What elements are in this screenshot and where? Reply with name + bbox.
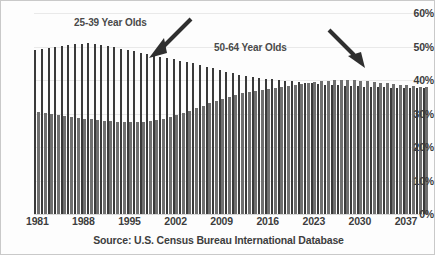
bar-group <box>34 13 41 214</box>
bar-group <box>54 13 61 214</box>
bar-group <box>304 13 311 214</box>
bar-group <box>120 13 127 214</box>
bar-group <box>41 13 48 214</box>
x-axis-tick-label: 2002 <box>164 216 187 227</box>
annotation-label-50-64: 50-64 Year Olds <box>214 42 287 53</box>
bar-group <box>310 13 317 214</box>
bar-group <box>87 13 94 214</box>
x-axis-tick-label: 2037 <box>395 216 418 227</box>
x-axis-tick-label: 1988 <box>72 216 95 227</box>
bar-group <box>389 13 396 214</box>
y-axis-tick-label: 30% <box>403 109 434 120</box>
y-axis-tick-label: 20% <box>403 142 434 153</box>
bar-group <box>297 13 304 214</box>
chart-figure: 0%10%20%30%40%50%60% 1981198819952002200… <box>0 0 435 255</box>
bar-group <box>198 13 205 214</box>
x-axis-tick-label: 2009 <box>210 216 233 227</box>
bar-group <box>80 13 87 214</box>
annotation-label-25-39: 25-39 Year Olds <box>74 17 147 28</box>
x-axis-tick-label: 2016 <box>256 216 279 227</box>
y-axis-tick-label: 40% <box>403 75 434 86</box>
y-axis-tick-label: 50% <box>403 42 434 53</box>
x-axis-tick-label: 1995 <box>118 216 141 227</box>
arrow-icon-25-39 <box>143 15 195 59</box>
x-axis-tick-label: 2030 <box>349 216 372 227</box>
bar-group <box>126 13 133 214</box>
bar-group <box>60 13 67 214</box>
bar-group <box>291 13 298 214</box>
bar-group <box>100 13 107 214</box>
bar-group <box>67 13 74 214</box>
arrow-icon-50-64 <box>323 27 373 71</box>
y-axis-tick-label: 10% <box>403 176 434 187</box>
bar-group <box>93 13 100 214</box>
x-axis-tick-label: 2023 <box>303 216 326 227</box>
bar-group <box>383 13 390 214</box>
bar-group <box>133 13 140 214</box>
y-axis-tick-label: 60% <box>403 8 434 19</box>
bar-group <box>73 13 80 214</box>
bar-group <box>106 13 113 214</box>
bar-group <box>376 13 383 214</box>
bar-group <box>205 13 212 214</box>
x-axis-tick-label: 1981 <box>26 216 49 227</box>
bar-group <box>396 13 403 214</box>
x-axis: 198119881995200220092016202320302037 <box>34 216 429 230</box>
bar-group <box>113 13 120 214</box>
source-caption: Source: U.S. Census Bureau International… <box>1 234 435 246</box>
bar-group <box>47 13 54 214</box>
